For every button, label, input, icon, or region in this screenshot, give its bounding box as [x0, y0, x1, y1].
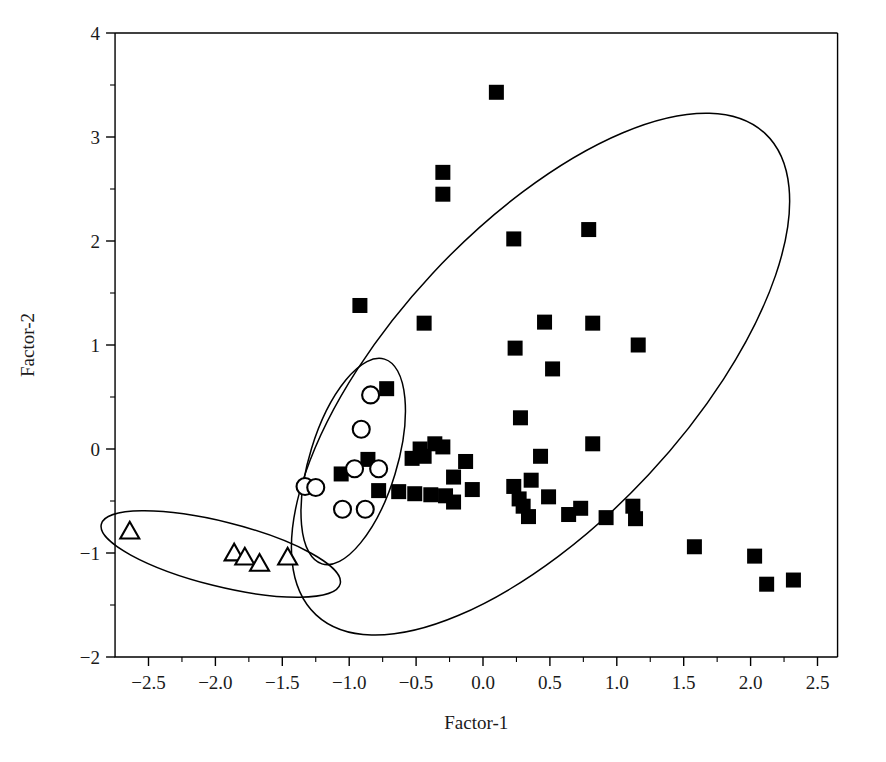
- cluster-ellipses-layer: [94, 33, 874, 716]
- data-point-triangle: [120, 522, 139, 539]
- data-point-circle: [307, 479, 324, 496]
- data-point-square: [489, 85, 504, 100]
- data-point-circle: [370, 460, 387, 477]
- x-tick-label: 1.0: [605, 672, 629, 693]
- data-point-square: [435, 187, 450, 202]
- data-point-circle: [362, 386, 379, 403]
- y-axis-title: Factor-2: [17, 313, 38, 377]
- data-point-square: [407, 486, 422, 501]
- y-tick-label: 2: [91, 231, 101, 252]
- y-tick-label: −1: [80, 543, 100, 564]
- data-point-square: [458, 454, 473, 469]
- y-tick-label: 1: [91, 335, 101, 356]
- x-tick-label: 0.0: [471, 672, 495, 693]
- data-point-square: [524, 473, 539, 488]
- data-point-square: [545, 361, 560, 376]
- y-tick-label: 3: [91, 127, 101, 148]
- x-tick-label: −0.5: [399, 672, 433, 693]
- data-point-circle: [357, 501, 374, 518]
- data-point-square: [379, 381, 394, 396]
- x-tick-label: −1.0: [332, 672, 366, 693]
- data-point-square: [631, 338, 646, 353]
- x-tick-label: 2.0: [739, 672, 763, 693]
- axes-layer: −2.5−2.0−1.5−1.0−0.50.00.51.01.52.02.5−2…: [80, 23, 838, 693]
- data-point-square: [405, 451, 420, 466]
- data-point-square: [759, 577, 774, 592]
- data-point-circle: [346, 460, 363, 477]
- data-point-triangle: [278, 548, 297, 565]
- y-tick-label: 4: [91, 23, 101, 44]
- x-tick-label: −1.5: [265, 672, 299, 693]
- data-point-square: [506, 231, 521, 246]
- data-point-square: [585, 316, 600, 331]
- data-point-square: [423, 487, 438, 502]
- data-points-layer: [120, 85, 801, 592]
- data-point-circle: [334, 501, 351, 518]
- data-point-square: [446, 470, 461, 485]
- x-tick-label: 1.5: [672, 672, 696, 693]
- scatter-plot-figure: −2.5−2.0−1.5−1.0−0.50.00.51.01.52.02.5−2…: [0, 0, 886, 762]
- x-tick-label: 0.5: [538, 672, 562, 693]
- data-point-square: [581, 222, 596, 237]
- x-axis-title: Factor-1: [444, 712, 508, 733]
- x-tick-label: −2.5: [131, 672, 165, 693]
- data-point-square: [435, 165, 450, 180]
- data-point-square: [786, 573, 801, 588]
- chart-canvas: −2.5−2.0−1.5−1.0−0.50.00.51.01.52.02.5−2…: [0, 0, 886, 762]
- data-point-square: [599, 510, 614, 525]
- ellipse-squares: [208, 33, 873, 716]
- data-point-square: [446, 495, 461, 510]
- x-tick-label: 2.5: [806, 672, 830, 693]
- x-tick-label: −2.0: [198, 672, 232, 693]
- data-point-square: [508, 341, 523, 356]
- data-point-square: [417, 316, 432, 331]
- data-point-square: [371, 483, 386, 498]
- data-point-square: [747, 549, 762, 564]
- axis-labels-layer: Factor-1Factor-2: [17, 313, 508, 733]
- data-point-square: [521, 509, 536, 524]
- data-point-circle: [353, 421, 370, 438]
- data-point-square: [687, 539, 702, 554]
- data-point-square: [435, 439, 450, 454]
- data-point-square: [561, 507, 576, 522]
- axis-lines: [115, 33, 838, 657]
- data-point-square: [533, 449, 548, 464]
- data-point-square: [391, 484, 406, 499]
- data-point-square: [585, 436, 600, 451]
- data-point-square: [465, 482, 480, 497]
- data-point-square: [541, 489, 556, 504]
- data-point-square: [537, 315, 552, 330]
- y-tick-label: 0: [91, 439, 101, 460]
- y-tick-label: −2: [80, 647, 100, 668]
- data-point-square: [352, 298, 367, 313]
- data-point-square: [513, 410, 528, 425]
- data-point-square: [628, 511, 643, 526]
